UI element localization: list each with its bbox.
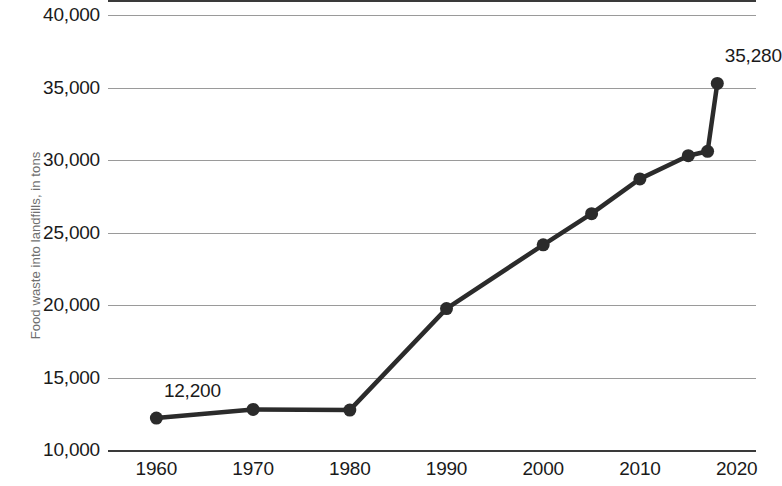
data-point-marker: [711, 77, 724, 90]
data-point-marker: [633, 172, 646, 185]
data-label: 12,200: [164, 380, 221, 402]
data-point-marker: [537, 238, 550, 251]
data-point-marker: [150, 412, 163, 425]
data-point-marker: [247, 403, 260, 416]
data-label: 35,280: [725, 45, 782, 67]
data-point-marker: [585, 207, 598, 220]
data-point-marker: [343, 404, 356, 417]
series-line: [156, 83, 717, 418]
data-point-marker: [701, 145, 714, 158]
data-point-marker: [682, 149, 695, 162]
series-marker-group: [150, 77, 724, 425]
data-point-marker: [440, 302, 453, 315]
